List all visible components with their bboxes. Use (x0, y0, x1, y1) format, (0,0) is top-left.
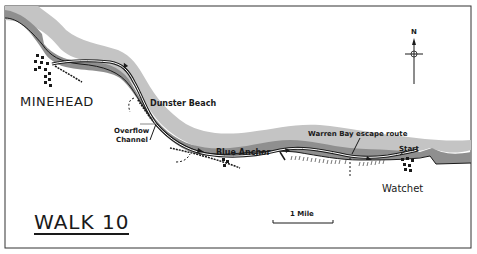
compass-north-label: N (411, 29, 417, 36)
label-overflow: Overflow (114, 128, 149, 135)
scale-label: 1 Mile (290, 211, 314, 218)
label-blue-anchor: Blue Anchor (216, 149, 271, 157)
label-start: Start (399, 146, 419, 153)
map-title: WALK 10 (34, 212, 129, 235)
label-channel: Channel (116, 137, 148, 144)
label-warren-bay: Warren Bay escape route (308, 131, 407, 138)
label-minehead: MINEHEAD (20, 95, 94, 108)
label-watchet: Watchet (382, 184, 423, 194)
label-dunster-beach: Dunster Beach (150, 100, 216, 108)
